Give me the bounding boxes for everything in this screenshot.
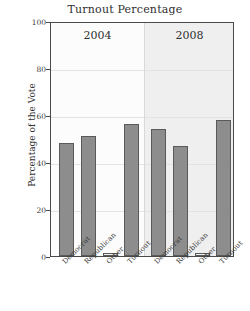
y-tick-40: 40 — [16, 159, 46, 168]
bar-2004-turnout — [124, 124, 139, 256]
bar-2008-turnout — [216, 120, 231, 256]
y-axis-label: Percentage of the Vote — [27, 55, 37, 215]
y-tick-80: 80 — [16, 65, 46, 74]
panel-divider — [144, 23, 145, 256]
panel-label-2008: 2008 — [144, 29, 234, 42]
bar-2004-democrat — [59, 143, 74, 256]
plot-area: 2004 2008 — [50, 22, 234, 257]
gridline-80 — [51, 70, 233, 71]
panel-label-2004: 2004 — [51, 29, 144, 42]
y-tick-100: 100 — [16, 18, 46, 27]
gridline-40 — [51, 164, 233, 165]
gridline-20 — [51, 211, 233, 212]
y-tick-60: 60 — [16, 112, 46, 121]
y-tick-mark-0 — [46, 257, 50, 258]
page-title: Turnout Percentage — [0, 3, 250, 16]
gridline-60 — [51, 117, 233, 118]
turnout-percentage-chart: Turnout Percentage Percentage of the Vot… — [0, 0, 250, 311]
y-tick-20: 20 — [16, 206, 46, 215]
bar-2008-democrat — [151, 129, 166, 256]
y-tick-0: 0 — [16, 253, 46, 262]
